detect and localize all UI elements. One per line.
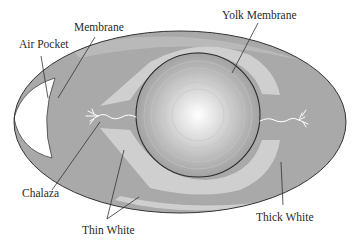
label-yolk-membrane: Yolk Membrane (222, 10, 297, 22)
label-thin-white: Thin White (82, 225, 135, 237)
yolk (136, 53, 260, 177)
label-membrane: Membrane (74, 22, 124, 34)
label-air-pocket: Air Pocket (19, 39, 69, 51)
label-thick-white: Thick White (256, 212, 314, 224)
egg-diagram (0, 0, 356, 246)
label-chalaza: Chalaza (22, 188, 59, 200)
